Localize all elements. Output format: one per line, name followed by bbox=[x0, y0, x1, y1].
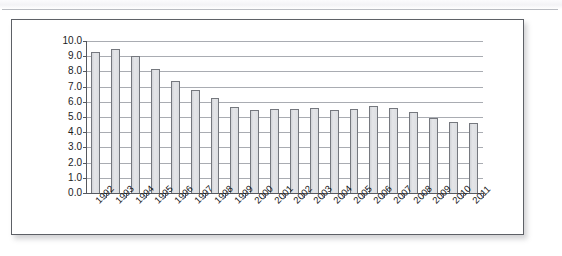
bar bbox=[131, 56, 140, 193]
bar bbox=[270, 109, 279, 193]
x-tick-mark bbox=[404, 194, 405, 198]
bar bbox=[409, 112, 418, 193]
bar bbox=[230, 107, 239, 193]
bar bbox=[250, 110, 259, 193]
y-tick-mark bbox=[83, 147, 87, 148]
bar bbox=[429, 118, 438, 193]
y-tick-label: 0.0 bbox=[42, 188, 82, 198]
y-tick-mark bbox=[83, 41, 87, 42]
bar bbox=[449, 122, 458, 193]
y-tick-mark bbox=[83, 87, 87, 88]
y-axis-labels: 10.09.08.07.06.05.04.03.02.01.00.0 bbox=[38, 41, 82, 193]
x-axis-labels: 1992199319941995199619971998199920002001… bbox=[86, 198, 484, 234]
bar bbox=[389, 108, 398, 193]
y-tick-label: 4.0 bbox=[42, 127, 82, 137]
x-tick-mark bbox=[384, 194, 385, 198]
y-tick-mark bbox=[83, 193, 87, 194]
bar bbox=[369, 106, 378, 193]
y-tick-mark bbox=[83, 71, 87, 72]
y-tick-mark bbox=[83, 178, 87, 179]
x-tick-mark bbox=[423, 194, 424, 198]
y-tick-label: 3.0 bbox=[42, 142, 82, 152]
bar bbox=[151, 69, 160, 193]
y-tick-mark bbox=[83, 56, 87, 57]
bar bbox=[171, 81, 180, 193]
x-tick-mark bbox=[126, 194, 127, 198]
scan-band bbox=[0, 0, 562, 9]
x-tick-mark bbox=[344, 194, 345, 198]
x-tick-mark bbox=[285, 194, 286, 198]
x-tick-mark bbox=[205, 194, 206, 198]
x-tick-mark bbox=[304, 194, 305, 198]
bar-chart: 10.09.08.07.06.05.04.03.02.01.00.0 19921… bbox=[12, 20, 523, 234]
y-tick-label: 10.0 bbox=[42, 36, 82, 46]
bar bbox=[290, 109, 299, 193]
y-tick-label: 8.0 bbox=[42, 66, 82, 76]
x-tick-mark bbox=[483, 194, 484, 198]
x-tick-mark bbox=[225, 194, 226, 198]
x-tick-mark bbox=[146, 194, 147, 198]
bar bbox=[111, 49, 120, 193]
y-tick-mark bbox=[83, 102, 87, 103]
bar bbox=[469, 123, 478, 193]
x-tick-mark bbox=[324, 194, 325, 198]
y-tick-label: 2.0 bbox=[42, 158, 82, 168]
bar bbox=[330, 110, 339, 193]
y-tick-mark bbox=[83, 163, 87, 164]
x-tick-mark bbox=[463, 194, 464, 198]
y-tick-label: 5.0 bbox=[42, 112, 82, 122]
x-tick-mark bbox=[106, 194, 107, 198]
y-tick-label: 1.0 bbox=[42, 173, 82, 183]
plot-area bbox=[86, 41, 483, 193]
scan-rule-divider bbox=[2, 9, 558, 10]
y-tick-label: 6.0 bbox=[42, 97, 82, 107]
bar bbox=[91, 52, 100, 193]
x-tick-mark bbox=[165, 194, 166, 198]
x-tick-mark bbox=[443, 194, 444, 198]
y-tick-label: 9.0 bbox=[42, 51, 82, 61]
x-tick-mark bbox=[185, 194, 186, 198]
y-tick-mark bbox=[83, 132, 87, 133]
bar bbox=[310, 108, 319, 193]
y-tick-label: 7.0 bbox=[42, 82, 82, 92]
x-tick-mark bbox=[245, 194, 246, 198]
figure-card: 10.09.08.07.06.05.04.03.02.01.00.0 19921… bbox=[11, 19, 524, 235]
x-tick-mark bbox=[265, 194, 266, 198]
bar bbox=[211, 98, 220, 193]
bar bbox=[350, 109, 359, 193]
bar-series bbox=[86, 41, 483, 193]
x-tick-mark bbox=[364, 194, 365, 198]
y-tick-mark bbox=[83, 117, 87, 118]
bar bbox=[191, 90, 200, 193]
